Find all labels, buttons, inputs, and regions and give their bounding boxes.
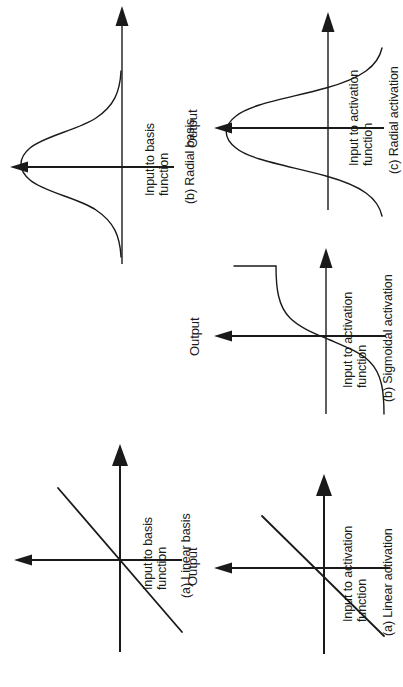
linear-activation-xlabel-line1: Input to activation [342,526,356,622]
sigmoid-curve [234,266,384,414]
x-axis-arrow [320,248,333,414]
radial-activation-ylabel: Output [186,110,200,148]
sigmoidal-activation-xlabel-line1: Input to activation [342,292,356,388]
x-axis-arrow [116,6,129,264]
x-axis-arrow [112,444,128,652]
panel-sigmoidal-activation: Output Input to activation function (b) … [200,238,403,450]
panel-radial-basis: Output Input to basis function (b) Radia… [0,0,200,300]
y-axis-arrow [214,331,386,342]
radial-basis-xlabel-line2: function [158,153,172,196]
y-axis-arrow [214,563,390,574]
linear-activation-ylabel: Output [186,548,200,586]
panel-linear-basis: Output Input to basis function (a) Linea… [0,396,200,687]
x-axis-arrow [322,12,335,210]
radial-activation-caption: (c) Radial activation [388,66,402,174]
radial-activation-xlabel-line1: Input to activation [348,70,362,166]
radial-activation-plot [206,0,403,244]
sigmoidal-activation-plot [208,238,398,444]
linear-basis-plot [6,396,196,678]
linear-basis-xlabel-line2: function [156,547,170,590]
radial-activation-xlabel-line2: function [362,123,376,166]
sigmoidal-activation-caption: (b) Sigmoidal activation [382,274,396,402]
linear-basis-xlabel-line1: Input to basis [142,517,156,590]
linear-activation-xlabel-line2: function [356,579,370,622]
panel-radial-activation: Output Input to activation function (c) … [200,0,403,250]
linear-activation-caption: (a) Linear activation [382,528,396,636]
x-axis-arrow [316,474,332,654]
sigmoidal-activation-ylabel: Output [188,318,202,356]
radial-basis-xlabel-line1: Input to basis [144,123,158,196]
sigmoidal-activation-xlabel-line2: function [356,345,370,388]
gaussian-curve [21,71,121,257]
linear-activation-plot [206,440,402,680]
radial-basis-plot [4,0,200,292]
panel-linear-activation: Output Input to activation function (a) … [200,440,403,687]
